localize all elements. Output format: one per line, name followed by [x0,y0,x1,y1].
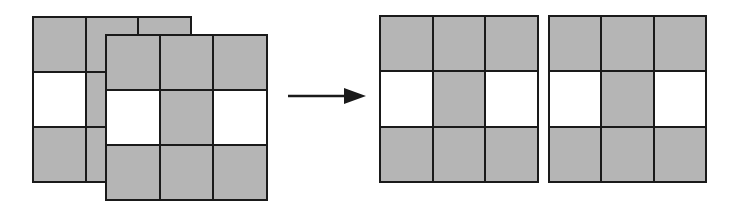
grid-cell-filled [602,128,652,181]
grid-cell-filled [486,17,537,70]
grid-cell-empty [550,72,600,125]
grid-cell-filled [161,36,213,89]
grid-cell-filled [434,72,485,125]
grid-cell-filled [214,36,266,89]
grid-cell-filled [161,91,213,144]
grid-cell-filled [602,17,652,70]
grid-cell-filled [486,128,537,181]
grid-cell-filled [34,128,85,181]
grid-cell-empty [107,91,159,144]
right-arrow-icon [288,86,366,106]
grid-cell-filled [655,17,705,70]
grid-cell-filled [381,128,432,181]
grid-cell-filled [34,18,85,71]
grid-cell-filled [214,146,266,199]
grid-cell-empty [381,72,432,125]
output-grid-a [379,15,539,183]
grid-cell-filled [381,17,432,70]
grid-cell-filled [434,128,485,181]
grid-cell-empty [486,72,537,125]
grid-cell-filled [434,17,485,70]
grid-cell-empty [214,91,266,144]
grid-cell-empty [655,72,705,125]
grid-cell-filled [161,146,213,199]
output-grid-b [548,15,707,183]
grid-cell-empty [34,73,85,126]
grid-cell-filled [550,128,600,181]
grid-cell-filled [655,128,705,181]
grid-cell-filled [602,72,652,125]
grid-cell-filled [550,17,600,70]
grid-cell-filled [107,146,159,199]
input-front-grid [105,34,268,201]
grid-cell-filled [107,36,159,89]
